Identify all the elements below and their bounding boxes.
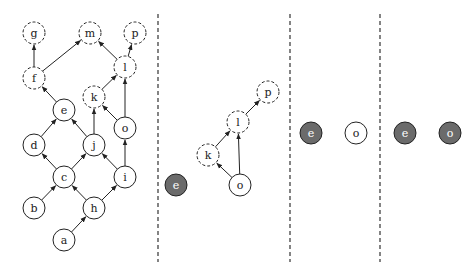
node-g: g	[23, 22, 45, 44]
node-label: h	[90, 202, 97, 215]
node-l: l	[114, 56, 136, 78]
node-e: e	[165, 174, 187, 196]
node-label: e	[308, 127, 315, 140]
edge-d-to-e	[41, 119, 56, 137]
node-o: o	[439, 122, 461, 144]
node-j: j	[83, 134, 105, 156]
edge-e-to-f	[42, 87, 56, 102]
node-label: o	[237, 179, 244, 192]
edge-h-to-i	[102, 186, 117, 201]
node-o: o	[345, 122, 367, 144]
edge-h-to-c	[72, 186, 86, 201]
edge-k-to-l	[102, 75, 117, 89]
graph-edges	[34, 41, 260, 233]
node-m: m	[79, 22, 101, 44]
node-label: k	[205, 149, 212, 162]
node-e: e	[300, 122, 322, 144]
edge-a-to-h	[72, 217, 86, 232]
edge-c-to-d	[42, 154, 56, 169]
node-c: c	[53, 166, 75, 188]
node-label: o	[353, 127, 360, 140]
node-label: b	[30, 202, 37, 215]
diagram-canvas: gmpflkeodjcibhaeklpoeoeo	[0, 0, 476, 271]
edge-l-to-p	[246, 101, 260, 115]
node-label: c	[61, 171, 67, 184]
node-i: i	[114, 166, 136, 188]
edge-b-to-c	[42, 186, 56, 201]
graph-nodes: gmpflkeodjcibhaeklpoeoeo	[23, 22, 461, 251]
node-label: e	[61, 104, 68, 117]
edge-c-to-j	[72, 154, 86, 169]
node-label: m	[85, 27, 96, 40]
edge-j-to-e	[72, 119, 87, 137]
node-k: k	[83, 86, 105, 108]
node-label: i	[123, 171, 127, 184]
node-label: g	[30, 27, 37, 40]
node-label: l	[236, 116, 240, 129]
node-a: a	[53, 229, 75, 251]
node-b: b	[23, 197, 45, 219]
node-o: o	[229, 174, 251, 196]
node-h: h	[83, 197, 105, 219]
node-d: d	[23, 134, 45, 156]
node-l: l	[227, 111, 249, 133]
node-label: e	[173, 179, 180, 192]
edge-o-to-k	[217, 163, 232, 177]
node-label: a	[61, 234, 68, 247]
node-p: p	[257, 81, 279, 103]
node-label: l	[123, 61, 127, 74]
node-e: e	[394, 122, 416, 144]
edge-l-to-p	[128, 45, 132, 57]
node-label: k	[91, 91, 98, 104]
node-p: p	[124, 22, 146, 44]
node-label: e	[402, 127, 409, 140]
node-label: o	[122, 122, 129, 135]
edge-f-to-m	[43, 41, 81, 72]
node-label: d	[30, 139, 37, 152]
node-f: f	[23, 67, 45, 89]
node-o: o	[114, 117, 136, 139]
node-label: p	[264, 86, 271, 99]
node-e: e	[53, 99, 75, 121]
node-k: k	[197, 144, 219, 166]
node-label: o	[447, 127, 454, 140]
edge-l-to-m	[99, 41, 118, 59]
edge-i-to-j	[102, 154, 117, 170]
edge-k-to-l	[215, 131, 230, 147]
node-label: p	[131, 27, 138, 40]
edge-o-to-k	[103, 106, 118, 121]
edge-o-to-l	[238, 134, 239, 174]
